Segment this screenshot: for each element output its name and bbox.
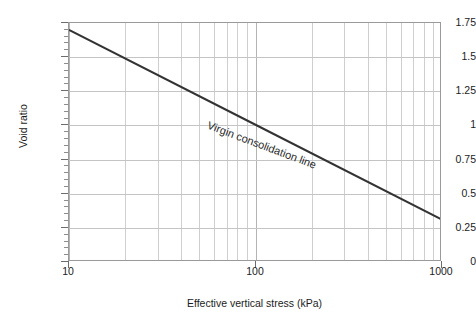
y-tick-major bbox=[61, 90, 68, 91]
y-tick-major bbox=[61, 56, 68, 57]
x-axis-title: Effective vertical stress (kPa) bbox=[68, 297, 441, 309]
y-tick-major bbox=[61, 227, 68, 228]
y-tick-major bbox=[61, 261, 68, 262]
x-tick-label: 100 bbox=[225, 265, 285, 277]
x-tick-label: 1000 bbox=[411, 265, 471, 277]
x-tick-label: 10 bbox=[38, 265, 98, 277]
data-line-layer bbox=[69, 23, 441, 261]
y-tick-major bbox=[61, 22, 68, 23]
y-tick-major bbox=[61, 124, 68, 125]
y-tick-major bbox=[61, 193, 68, 194]
plot-area: Virgin consolidation line bbox=[68, 22, 441, 261]
consolidation-chart: Void ratio 00.250.50.7511.251.51.75 1010… bbox=[0, 0, 476, 332]
y-axis-title: Void ratio bbox=[17, 81, 29, 171]
virgin-consolidation-line bbox=[69, 30, 441, 220]
y-tick-major bbox=[61, 159, 68, 160]
